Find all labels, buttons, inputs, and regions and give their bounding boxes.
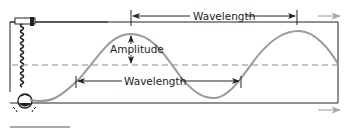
- wavelength-top-marker: Wavelength: [131, 10, 297, 27]
- wave-curve: [30, 31, 338, 101]
- amplitude-marker: Amplitude: [110, 36, 164, 63]
- wavelength-bottom-marker: Wavelength: [76, 75, 241, 89]
- wavelength-bottom-label: Wavelength: [124, 75, 186, 87]
- wave-diagram: Wavelength Amplitude Wavelength: [0, 0, 351, 128]
- wavelength-top-label: Wavelength: [193, 10, 255, 22]
- spring-icon: [15, 17, 35, 87]
- amplitude-label: Amplitude: [110, 43, 164, 55]
- frame: [10, 22, 338, 103]
